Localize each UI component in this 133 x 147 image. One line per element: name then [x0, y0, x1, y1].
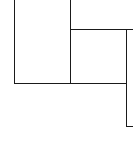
left-wall-line	[14, 0, 15, 84]
diagram-canvas	[0, 0, 133, 147]
lower-right-stub-line	[126, 126, 133, 127]
bottom-wall-line	[14, 83, 127, 84]
right-wall-line	[126, 29, 127, 127]
right-room-top-wall-line	[70, 29, 133, 30]
middle-wall-line	[70, 0, 71, 84]
